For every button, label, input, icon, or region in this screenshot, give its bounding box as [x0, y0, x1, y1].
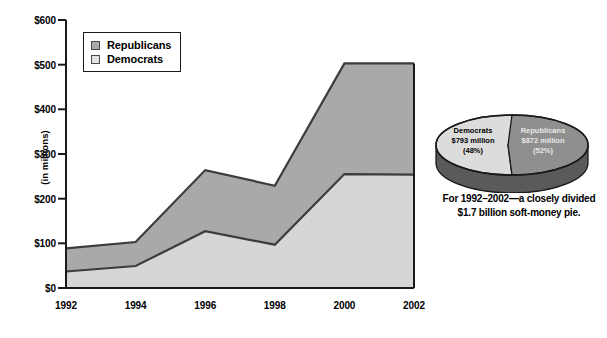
- legend-swatch-democrats: [91, 55, 100, 64]
- x-tick-1996: 1996: [194, 300, 216, 311]
- pie-label-democrats: Democrats $793 million (48%): [442, 126, 504, 156]
- legend-swatch-republicans: [91, 41, 100, 50]
- x-tick-1992: 1992: [55, 300, 77, 311]
- pie-chart-panel: Democrats $793 million (48%) Republicans…: [432, 0, 607, 338]
- pie-label-republicans: Republicans $872 million (52%): [510, 126, 576, 156]
- pie-label-democrats-percent: (48%): [442, 146, 504, 156]
- x-tick-1994: 1994: [125, 300, 147, 311]
- pie-caption-line-1: For 1992–2002—a closely divided: [429, 192, 607, 206]
- chart-legend: Republicans Democrats: [83, 32, 181, 72]
- chart-figure: (in millions) $600 $500 $400 $300 $200 $…: [0, 0, 607, 338]
- legend-label-democrats: Democrats: [107, 53, 163, 65]
- x-tick-1998: 1998: [264, 300, 286, 311]
- legend-item-democrats: Democrats: [91, 52, 171, 66]
- legend-label-republicans: Republicans: [107, 39, 171, 51]
- pie-label-republicans-amount: $872 million: [510, 136, 576, 146]
- x-tick-2002: 2002: [403, 300, 425, 311]
- pie-label-democrats-amount: $793 million: [442, 136, 504, 146]
- legend-item-republicans: Republicans: [91, 38, 171, 52]
- pie-label-republicans-name: Republicans: [510, 126, 576, 136]
- pie-caption: For 1992–2002—a closely divided $1.7 bil…: [429, 192, 607, 219]
- plot-area: [0, 0, 425, 338]
- stacked-area-chart: (in millions) $600 $500 $400 $300 $200 $…: [0, 0, 425, 338]
- pie-label-democrats-name: Democrats: [442, 126, 504, 136]
- pie-caption-line-2: $1.7 billion soft-money pie.: [429, 206, 607, 220]
- x-tick-2000: 2000: [333, 300, 355, 311]
- pie-label-republicans-percent: (52%): [510, 146, 576, 156]
